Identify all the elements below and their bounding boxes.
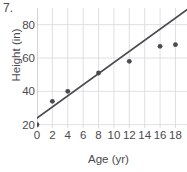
data-point	[127, 59, 132, 64]
y-tick-label: 80	[11, 19, 35, 31]
x-axis-tick-labels: 024681012141618	[37, 129, 187, 142]
data-point	[37, 122, 39, 127]
scatter-plot-figure: 7. Height (in) 20406080 024681012141618 …	[0, 0, 187, 172]
x-axis-title: Age (yr)	[30, 152, 187, 166]
trend-line	[37, 10, 187, 118]
data-point	[96, 71, 101, 76]
y-axis-tick-labels: 20406080	[9, 8, 35, 128]
data-point	[50, 99, 55, 104]
data-point	[65, 89, 70, 94]
y-tick-label: 60	[11, 52, 35, 64]
y-tick-label: 40	[11, 85, 35, 97]
plot-area	[37, 8, 187, 128]
data-point	[158, 44, 163, 49]
x-tick-label: 18	[166, 129, 184, 142]
data-points	[37, 42, 178, 127]
data-point	[173, 42, 178, 47]
plot-svg	[37, 8, 187, 128]
trend-line-segment	[37, 10, 187, 118]
